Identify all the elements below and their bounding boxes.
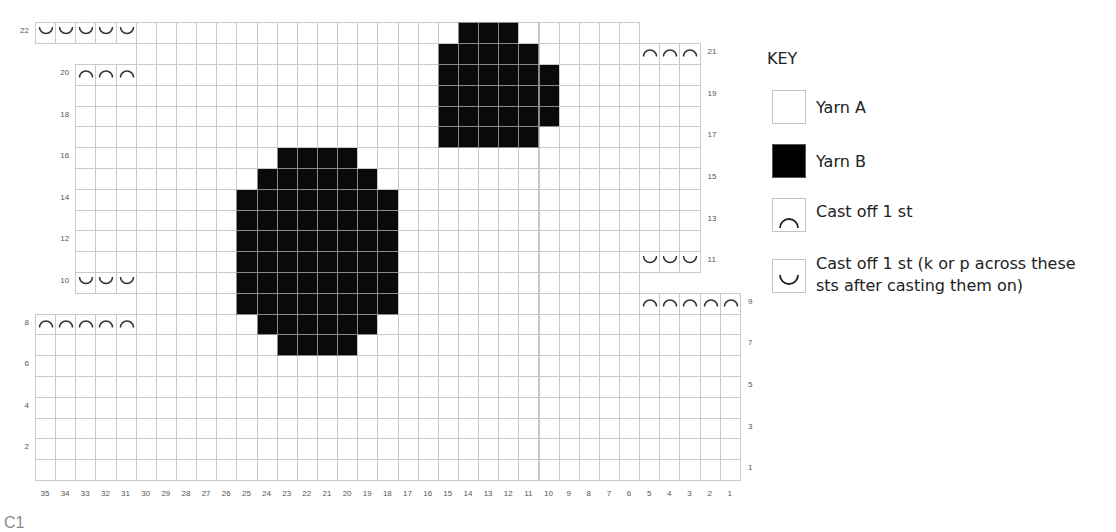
chart-cell	[539, 147, 560, 169]
chart-cell	[257, 459, 278, 481]
chart-cell	[176, 334, 197, 356]
chart-cell	[418, 230, 439, 252]
chart-cell	[176, 251, 197, 273]
chart-cell	[579, 210, 600, 232]
row-label: 13	[708, 214, 722, 223]
chart-cell	[599, 189, 620, 211]
chart-cell	[277, 272, 298, 294]
chart-cell	[458, 251, 479, 273]
chart-cell	[357, 272, 378, 294]
cast-off-cup-icon	[35, 22, 56, 44]
chart-cell	[236, 418, 257, 440]
chart-cell	[216, 418, 237, 440]
chart-cell	[478, 147, 499, 169]
chart-cell	[337, 376, 358, 398]
chart-cell	[297, 22, 318, 44]
column-label: 33	[75, 489, 95, 498]
chart-cell	[317, 355, 338, 377]
chart-cell	[136, 230, 157, 252]
chart-cell	[398, 438, 419, 460]
chart-cell	[357, 43, 378, 65]
chart-cell	[659, 438, 680, 460]
chart-cell	[75, 397, 96, 419]
chart-cell	[559, 126, 580, 148]
chart-cell	[619, 397, 640, 419]
chart-cell	[377, 397, 398, 419]
chart-cell	[418, 376, 439, 398]
chart-cell	[639, 314, 660, 336]
chart-cell	[156, 210, 177, 232]
chart-cell	[478, 230, 499, 252]
chart-cell	[156, 126, 177, 148]
column-label: 34	[55, 489, 75, 498]
cast-off-cap-icon	[116, 64, 137, 86]
chart-cell	[337, 106, 358, 128]
chart-cell	[559, 210, 580, 232]
chart-cell	[236, 106, 257, 128]
chart-cell	[357, 293, 378, 315]
chart-cell	[297, 438, 318, 460]
chart-cell	[720, 334, 741, 356]
chart-cell	[236, 376, 257, 398]
cast-off-cap-icon	[700, 293, 721, 315]
chart-cell	[659, 376, 680, 398]
chart-cell	[95, 126, 116, 148]
chart-cell	[679, 397, 700, 419]
chart-cell	[599, 230, 620, 252]
column-label: 2	[700, 489, 720, 498]
chart-cell	[679, 314, 700, 336]
column-label: 5	[639, 489, 659, 498]
chart-cell	[539, 85, 560, 107]
chart-cell	[257, 210, 278, 232]
chart-cell	[156, 189, 177, 211]
chart-cell	[518, 418, 539, 440]
chart-cell	[498, 22, 519, 44]
chart-cell	[317, 459, 338, 481]
chart-cell	[579, 376, 600, 398]
chart-cell	[619, 314, 640, 336]
chart-cell	[659, 459, 680, 481]
chart-cell	[337, 189, 358, 211]
column-label: 11	[518, 489, 538, 498]
chart-cell	[679, 334, 700, 356]
cast-off-cap-icon	[95, 314, 116, 336]
chart-cell	[639, 106, 660, 128]
chart-cell	[297, 376, 318, 398]
column-label: 29	[156, 489, 176, 498]
chart-cell	[317, 22, 338, 44]
key-title: KEY	[767, 49, 797, 68]
chart-cell	[438, 376, 459, 398]
chart-cell	[559, 355, 580, 377]
chart-cell	[619, 293, 640, 315]
chart-cell	[458, 106, 479, 128]
chart-cell	[156, 64, 177, 86]
chart-cell	[156, 355, 177, 377]
chart-cell	[236, 438, 257, 460]
chart-cell	[599, 85, 620, 107]
chart-cell	[639, 126, 660, 148]
chart-cell	[357, 22, 378, 44]
column-label: 35	[35, 489, 55, 498]
chart-cell	[579, 106, 600, 128]
chart-cell	[236, 293, 257, 315]
chart-cell	[95, 459, 116, 481]
chart-cell	[700, 459, 721, 481]
chart-cell	[196, 272, 217, 294]
chart-cell	[398, 85, 419, 107]
cast-off-cap-icon	[772, 198, 806, 232]
chart-cell	[599, 376, 620, 398]
chart-cell	[116, 106, 137, 128]
chart-cell	[619, 147, 640, 169]
cast-off-cup-icon	[639, 251, 660, 273]
chart-cell	[357, 376, 378, 398]
chart-cell	[156, 106, 177, 128]
cast-off-cap-icon	[75, 64, 96, 86]
chart-caption-cut: C1	[4, 514, 24, 532]
chart-cell	[357, 126, 378, 148]
chart-cell	[418, 438, 439, 460]
chart-cell	[75, 230, 96, 252]
chart-cell	[619, 22, 640, 44]
chart-cell	[116, 230, 137, 252]
chart-cell	[136, 418, 157, 440]
chart-cell	[398, 189, 419, 211]
